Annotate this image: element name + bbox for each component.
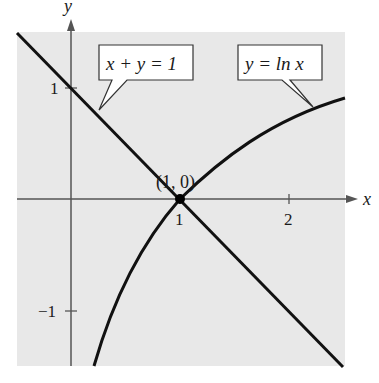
y-axis-label: y <box>62 0 72 16</box>
svg-text:x + y = 1: x + y = 1 <box>105 53 177 74</box>
intersection-point <box>175 194 185 204</box>
graph: x y 1 2 1 −1 (1, 0) x + y = 1 y = ln x <box>0 0 379 383</box>
tick-label-x2: 2 <box>284 210 293 229</box>
point-label: (1, 0) <box>156 172 195 193</box>
x-axis-label: x <box>362 189 371 209</box>
svg-text:y = ln x: y = ln x <box>243 53 304 74</box>
y-axis-arrow-icon <box>67 19 75 31</box>
tick-label-y1: 1 <box>50 79 59 98</box>
x-axis-arrow-icon <box>346 195 358 203</box>
tick-label-x1: 1 <box>175 210 184 229</box>
tick-label-ym1: −1 <box>38 302 56 321</box>
